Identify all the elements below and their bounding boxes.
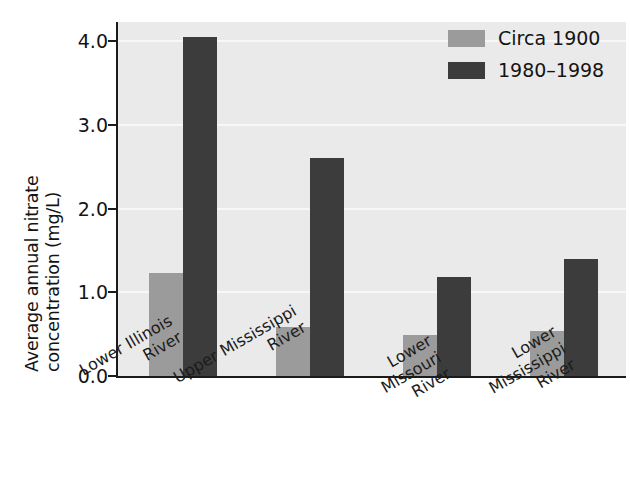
y-axis-tick-label: 4.0 bbox=[60, 30, 108, 52]
legend-item: Circa 1900 bbox=[448, 22, 628, 54]
bar-1980-1998 bbox=[310, 158, 344, 376]
legend-item: 1980–1998 bbox=[448, 54, 628, 86]
bar-1980-1998 bbox=[183, 37, 217, 376]
x-axis-category-labels: Lower IllinoisRiverUpper MississippiRive… bbox=[0, 378, 630, 479]
y-axis-tick-label: 2.0 bbox=[60, 198, 108, 220]
legend-label: Circa 1900 bbox=[498, 27, 600, 49]
chart-legend: Circa 19001980–1998 bbox=[448, 22, 628, 86]
y-axis-tick-mark bbox=[108, 124, 117, 126]
y-axis-tick-label: 3.0 bbox=[60, 114, 108, 136]
legend-swatch-icon bbox=[448, 30, 485, 47]
legend-swatch-icon bbox=[448, 62, 485, 79]
y-axis-tick-mark bbox=[108, 291, 117, 293]
y-axis-tick-label: 1.0 bbox=[60, 281, 108, 303]
nitrate-concentration-bar-chart: Average annual nitrate concentration (mg… bbox=[0, 0, 630, 479]
legend-label: 1980–1998 bbox=[498, 59, 604, 81]
y-axis-title-line-1: Average annual nitrate bbox=[22, 175, 42, 372]
y-axis-tick-mark bbox=[108, 208, 117, 210]
y-axis-tick-mark bbox=[108, 40, 117, 42]
y-axis-title: Average annual nitrate concentration (mg… bbox=[0, 0, 56, 390]
